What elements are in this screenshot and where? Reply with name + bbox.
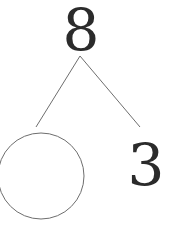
whole-number: 8 — [63, 0, 100, 64]
number-bond-diagram: 8 3 — [0, 0, 182, 237]
part-number-right: 3 — [128, 131, 165, 199]
empty-answer-circle[interactable] — [0, 133, 84, 219]
connector-left — [36, 56, 80, 127]
connector-right — [80, 56, 140, 127]
